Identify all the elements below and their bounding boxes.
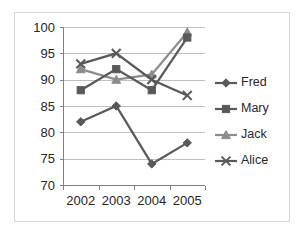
legend-item-jack[interactable]: Jack bbox=[215, 127, 267, 141]
y-tick-label: 90 bbox=[41, 72, 55, 87]
x-tick-label: 2002 bbox=[66, 193, 95, 208]
y-axis bbox=[60, 27, 64, 186]
gridlines bbox=[63, 28, 205, 186]
chart-plot-area: 100959085807570 2002200320042005 FredMar… bbox=[15, 13, 289, 221]
square-marker-icon bbox=[77, 87, 84, 94]
x-tick-label: 2003 bbox=[102, 193, 131, 208]
y-tick-label: 75 bbox=[41, 151, 55, 166]
diamond-marker-icon bbox=[222, 79, 230, 87]
square-marker-icon bbox=[113, 66, 120, 73]
y-tick-label: 85 bbox=[41, 99, 55, 114]
series-fred bbox=[77, 102, 192, 168]
line-chart: 100959085807570 2002200320042005 FredMar… bbox=[0, 0, 303, 231]
chart-legend: FredMaryJackAlice bbox=[215, 75, 270, 167]
y-tick-label: 95 bbox=[41, 46, 55, 61]
legend-item-mary[interactable]: Mary bbox=[215, 101, 270, 115]
series-line bbox=[81, 106, 188, 164]
chart-frame: 100959085807570 2002200320042005 FredMar… bbox=[14, 12, 290, 222]
x-tick-label: 2005 bbox=[173, 193, 202, 208]
legend-label: Alice bbox=[241, 153, 268, 167]
square-marker-icon bbox=[222, 105, 229, 112]
legend-label: Mary bbox=[241, 101, 270, 115]
x-marker-icon bbox=[183, 91, 192, 100]
y-tick-label: 100 bbox=[33, 20, 55, 35]
x-tick-label: 2004 bbox=[137, 193, 166, 208]
legend-item-alice[interactable]: Alice bbox=[215, 153, 268, 167]
legend-label: Jack bbox=[241, 127, 267, 141]
series-line bbox=[81, 32, 188, 79]
data-series-group bbox=[76, 28, 191, 168]
x-tick-labels: 2002200320042005 bbox=[66, 193, 201, 208]
square-marker-icon bbox=[148, 87, 155, 94]
legend-label: Fred bbox=[241, 75, 267, 89]
series-mary bbox=[77, 34, 191, 94]
square-marker-icon bbox=[184, 34, 191, 41]
y-tick-label: 70 bbox=[41, 178, 55, 193]
diamond-marker-icon bbox=[77, 118, 85, 126]
legend-item-fred[interactable]: Fred bbox=[215, 75, 267, 89]
y-tick-label: 80 bbox=[41, 125, 55, 140]
x-axis bbox=[63, 186, 206, 190]
y-tick-labels: 100959085807570 bbox=[33, 20, 55, 193]
series-line bbox=[81, 38, 188, 91]
